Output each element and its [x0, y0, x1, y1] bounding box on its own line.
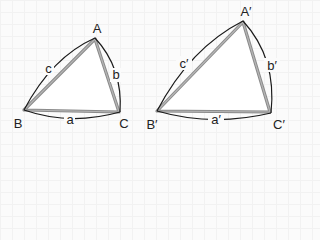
triangle-a-prime-b-prime-c-prime: c′ b′ a′ A′ B′ C′ [146, 4, 285, 132]
side-c-label: c [45, 61, 52, 76]
vertex-c-label: C [119, 116, 128, 131]
vertex-b-prime-label: B′ [146, 117, 158, 132]
side-a-label: a [66, 112, 74, 127]
side-b-label: b [112, 67, 119, 82]
side-b-prime-label: b′ [267, 58, 277, 73]
vertex-c-prime-label: C′ [273, 117, 285, 132]
vertex-a-prime-label: A′ [240, 4, 252, 19]
triangle-abc: c b a A B C [14, 21, 129, 131]
triangle-prime-fill [157, 22, 270, 112]
side-c-prime-label: c′ [180, 56, 190, 71]
vertex-a-label: A [93, 21, 102, 36]
vertex-b-label: B [14, 116, 23, 131]
side-a-prime-label: a′ [211, 112, 221, 127]
similar-triangles-figure: c b a A B C c′ b′ a′ A′ B′ [0, 0, 299, 141]
